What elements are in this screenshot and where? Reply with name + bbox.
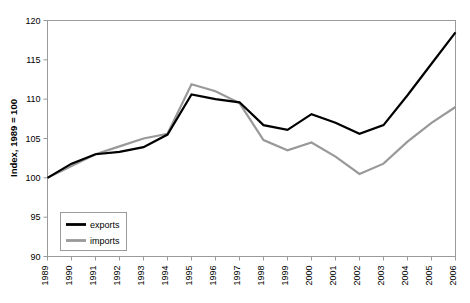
x-tick-label: 2003 — [376, 266, 386, 286]
x-tick-label: 1998 — [256, 266, 266, 286]
y-tick-label: 120 — [25, 16, 40, 26]
y-tick-label: 105 — [25, 134, 40, 144]
x-tick-label: 2006 — [448, 266, 458, 286]
chart-legend: exportsimports — [61, 213, 127, 251]
x-tick-label: 1992 — [112, 266, 122, 286]
y-tick-label: 115 — [26, 55, 40, 65]
y-tick-label: 100 — [25, 173, 40, 183]
x-tick-label: 1996 — [208, 266, 218, 286]
y-tick-label: 95 — [30, 212, 40, 222]
x-tick-label: 2000 — [304, 266, 314, 286]
x-tick-label: 1989 — [40, 266, 50, 286]
chart-background — [0, 0, 470, 303]
x-tick-label: 2002 — [352, 266, 362, 286]
x-tick-label: 2004 — [400, 266, 410, 286]
x-tick-label: 1991 — [88, 266, 98, 286]
chart-canvas: Index, 1989 = 100 9095100105110115120 19… — [0, 0, 470, 303]
x-tick-label: 1993 — [136, 266, 146, 286]
y-tick-label: 110 — [26, 94, 40, 104]
x-tick-label: 1995 — [184, 266, 194, 286]
legend-label-exports: exports — [90, 220, 120, 230]
x-tick-label: 2005 — [424, 266, 434, 286]
x-tick-label: 2001 — [328, 266, 338, 286]
y-axis-title: Index, 1989 = 100 — [8, 99, 19, 177]
x-tick-label: 1990 — [64, 266, 74, 286]
y-tick-label: 90 — [30, 252, 40, 262]
x-tick-label: 1994 — [160, 266, 170, 286]
x-tick-label: 1997 — [232, 266, 242, 286]
legend-label-imports: imports — [90, 236, 120, 246]
line-chart: Index, 1989 = 100 9095100105110115120 19… — [0, 0, 470, 303]
x-tick-label: 1999 — [280, 266, 290, 286]
